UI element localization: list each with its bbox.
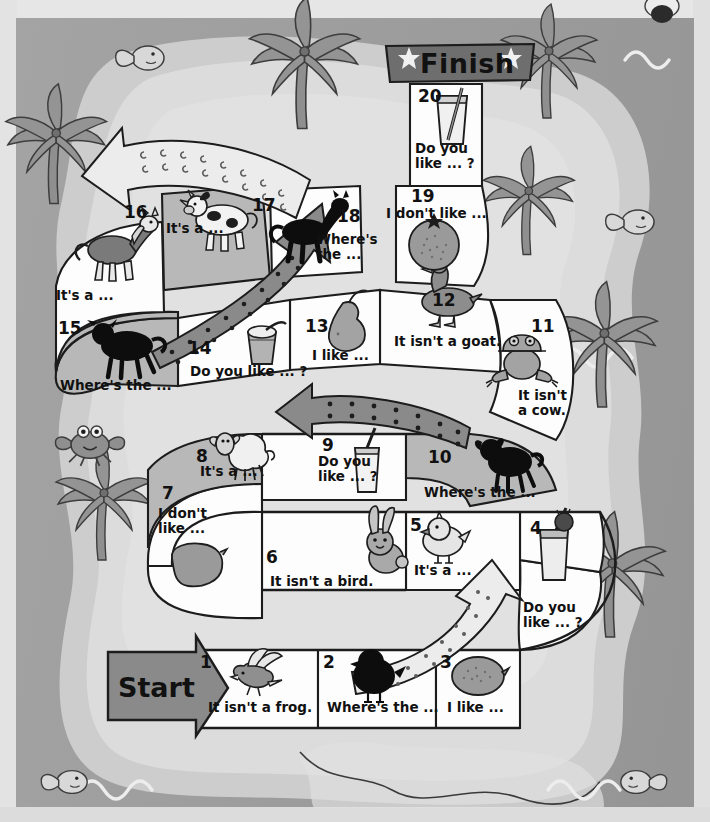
tile-9-text: Do you like ... ? [318,454,378,484]
tile-13-number[interactable]: 13 [305,318,329,335]
tile-16-text: It's a ... [56,288,114,303]
board-game-page: .tileL{fill:#fdfdfd;stroke:#1c1c1c;strok… [0,0,710,822]
tile-11-text: It isn't a cow. [518,388,567,418]
tile-7-number[interactable]: 7 [162,485,174,502]
finish-label: Finish [420,48,514,79]
tile-4-number[interactable]: 4 [530,520,542,537]
tile-12-number[interactable]: 12 [432,292,456,309]
tile-15-number[interactable]: 15 [58,320,82,337]
tile-8-text: It's a ... [200,464,258,479]
tile-7-text: I don't like ... [158,506,207,536]
tile-17-text: It's a ... [166,221,224,236]
tile-10-number[interactable]: 10 [428,449,452,466]
tile-5-number[interactable]: 5 [410,517,422,534]
tile-9-number[interactable]: 9 [322,437,334,454]
tile-15-text: Where's the ... [60,378,172,393]
tile-2-text: Where's the ... [327,700,439,715]
tile-14-text: Do you like ... ? [190,364,307,379]
tile-1-text: It isn't a frog. [208,700,312,715]
tile-4-text: Do you like ... ? [523,600,583,630]
tile-2-number[interactable]: 2 [323,654,335,671]
tile-3-number[interactable]: 3 [440,654,452,671]
tile-20-text: Do you like ... ? [415,141,475,171]
tile-19-number[interactable]: 19 [411,188,435,205]
tile-5-text: It's a ... [414,563,472,578]
tile-3-text: I like ... [447,700,504,715]
tile-6-text: It isn't a bird. [270,574,373,589]
tile-11-number[interactable]: 11 [531,318,555,335]
tile-6-number[interactable]: 6 [266,549,278,566]
tile-18-number[interactable]: 18 [337,208,361,225]
tile-17-number[interactable]: 17 [252,197,276,214]
tile-19-text: I don't like ... [386,206,487,221]
tile-13-text: I like ... [312,348,369,363]
tile-10-text: Where's the ... [424,485,536,500]
tile-1-number[interactable]: 1 [200,654,212,671]
tile-20-number[interactable]: 20 [418,88,442,105]
tile-14-number[interactable]: 14 [188,340,212,357]
start-label: Start [118,672,195,703]
tile-18-text: Where's the ... [316,232,378,262]
tile-16-number[interactable]: 16 [124,204,148,221]
tile-12-text: It isn't a goat. [394,334,501,349]
